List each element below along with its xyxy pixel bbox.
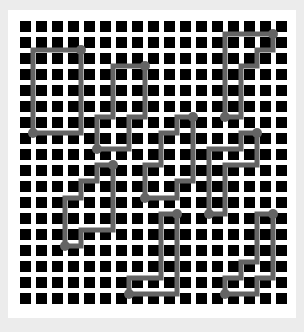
grid-square bbox=[84, 277, 95, 288]
grid-square bbox=[132, 21, 143, 32]
grid-square bbox=[180, 277, 191, 288]
grid-square bbox=[260, 53, 271, 64]
grid-square bbox=[84, 293, 95, 304]
grid-square bbox=[84, 69, 95, 80]
grid-square bbox=[244, 85, 255, 96]
path-endpoint-dot bbox=[188, 112, 198, 122]
grid-square bbox=[212, 133, 223, 144]
grid-square bbox=[212, 277, 223, 288]
grid-square bbox=[196, 277, 207, 288]
grid-square bbox=[196, 293, 207, 304]
grid-square bbox=[260, 261, 271, 272]
grid-square bbox=[36, 229, 47, 240]
grid-square bbox=[116, 277, 127, 288]
grid-square bbox=[100, 53, 111, 64]
grid-square bbox=[260, 37, 271, 48]
grid-square bbox=[132, 213, 143, 224]
grid-square bbox=[132, 261, 143, 272]
path-endpoint-dot bbox=[220, 289, 230, 299]
path-endpoint-dot bbox=[140, 61, 150, 71]
grid-square bbox=[116, 197, 127, 208]
grid-square bbox=[84, 117, 95, 128]
grid-square bbox=[68, 21, 79, 32]
grid-square bbox=[20, 85, 31, 96]
grid-square bbox=[100, 261, 111, 272]
grid-square bbox=[132, 149, 143, 160]
grid-square bbox=[164, 181, 175, 192]
grid-square bbox=[36, 181, 47, 192]
grid-square bbox=[20, 245, 31, 256]
grid-square bbox=[244, 101, 255, 112]
grid-square bbox=[228, 53, 239, 64]
grid-square bbox=[164, 149, 175, 160]
grid-square bbox=[212, 261, 223, 272]
grid-square bbox=[180, 85, 191, 96]
path-endpoint-dot bbox=[140, 193, 150, 203]
grid-square bbox=[100, 21, 111, 32]
grid-square bbox=[244, 197, 255, 208]
grid-square bbox=[84, 165, 95, 176]
grid-square bbox=[276, 133, 287, 144]
grid-square bbox=[132, 245, 143, 256]
grid-square bbox=[212, 181, 223, 192]
grid-square bbox=[212, 101, 223, 112]
grid-square bbox=[164, 37, 175, 48]
grid-square bbox=[36, 277, 47, 288]
grid-square bbox=[84, 53, 95, 64]
grid-square bbox=[68, 101, 79, 112]
grid-square bbox=[132, 165, 143, 176]
grid-square bbox=[148, 133, 159, 144]
grid-square bbox=[68, 261, 79, 272]
grid-square bbox=[276, 165, 287, 176]
grid-square bbox=[196, 53, 207, 64]
grid-square bbox=[276, 181, 287, 192]
grid-square bbox=[260, 293, 271, 304]
path-endpoint-dot bbox=[268, 209, 278, 219]
grid-board bbox=[0, 0, 304, 332]
grid-square bbox=[212, 69, 223, 80]
grid-square bbox=[68, 293, 79, 304]
path-endpoint-dot bbox=[92, 144, 102, 154]
grid-square bbox=[164, 101, 175, 112]
path-endpoint-dot bbox=[108, 160, 118, 170]
grid-square bbox=[148, 53, 159, 64]
grid-square bbox=[180, 229, 191, 240]
grid-square bbox=[164, 69, 175, 80]
grid-square bbox=[116, 229, 127, 240]
grid-square bbox=[244, 181, 255, 192]
grid-square bbox=[52, 261, 63, 272]
grid-square bbox=[196, 149, 207, 160]
grid-square bbox=[244, 229, 255, 240]
grid-square bbox=[196, 229, 207, 240]
grid-square bbox=[36, 53, 47, 64]
grid-square bbox=[116, 117, 127, 128]
grid-square bbox=[180, 53, 191, 64]
grid-square bbox=[228, 229, 239, 240]
grid-square bbox=[52, 117, 63, 128]
grid-square bbox=[196, 181, 207, 192]
grid-square bbox=[180, 261, 191, 272]
grid-square bbox=[84, 101, 95, 112]
grid-square bbox=[196, 165, 207, 176]
grid-square bbox=[84, 261, 95, 272]
grid-square bbox=[276, 117, 287, 128]
grid-square bbox=[212, 245, 223, 256]
grid-square bbox=[180, 37, 191, 48]
grid-square bbox=[20, 21, 31, 32]
grid-square bbox=[84, 197, 95, 208]
grid-square bbox=[212, 165, 223, 176]
grid-square bbox=[212, 85, 223, 96]
grid-square bbox=[36, 293, 47, 304]
grid-square bbox=[276, 101, 287, 112]
grid-square bbox=[36, 213, 47, 224]
grid-square bbox=[260, 181, 271, 192]
grid-square bbox=[100, 197, 111, 208]
grid-square bbox=[196, 245, 207, 256]
grid-square bbox=[180, 69, 191, 80]
path-endpoint-dot bbox=[172, 209, 182, 219]
grid-square bbox=[52, 277, 63, 288]
grid-square bbox=[84, 133, 95, 144]
grid-square bbox=[68, 277, 79, 288]
grid-square bbox=[244, 53, 255, 64]
grid-square bbox=[228, 69, 239, 80]
